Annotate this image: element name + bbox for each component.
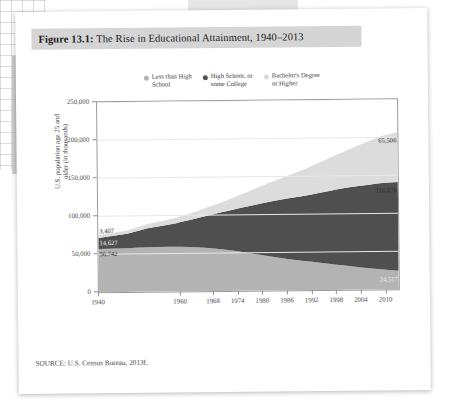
figure-page-card: Figure 13.1: The Rise in Educational Att… xyxy=(15,8,431,394)
x-axis-tick-label: 1968 xyxy=(206,297,220,304)
source-note: SOURCE: U.S. Census Bureau, 2013f. xyxy=(36,359,148,368)
x-axis-tick-label: 1980 xyxy=(255,297,269,304)
x-axis-tick-label: 2004 xyxy=(354,296,368,303)
y-axis-tick-label: 100,000 xyxy=(68,212,90,219)
y-axis-tick-mark xyxy=(93,215,97,216)
x-axis-tick-mark xyxy=(238,291,239,295)
label-end-less-than-high-school: 24,517 xyxy=(370,275,398,282)
gridline-horizontal xyxy=(97,137,397,140)
label-end-high-school: 116,676 xyxy=(369,186,397,193)
y-axis-tick-label: 250,000 xyxy=(67,98,89,105)
y-axis-tick-label: 50,000 xyxy=(72,250,91,257)
legend-swatch-icon xyxy=(144,76,149,81)
x-axis-tick-mark xyxy=(386,289,387,293)
x-axis-tick-label: 1992 xyxy=(305,296,319,303)
legend-label: Less than High School xyxy=(152,72,192,89)
x-axis-tick-mark xyxy=(361,290,362,294)
label-end-bachelors: 65,506 xyxy=(368,137,396,144)
y-axis-title: U.S. population age 25 and older (in tho… xyxy=(53,99,71,203)
x-axis-tick-label: 1986 xyxy=(280,296,294,303)
x-axis-tick-label: 1998 xyxy=(329,296,343,303)
figure-title-band: Figure 13.1: The Rise in Educational Att… xyxy=(31,26,361,50)
x-axis-tick-mark xyxy=(98,292,99,296)
y-axis-tick-mark xyxy=(93,177,97,178)
stacked-area-svg xyxy=(97,99,399,292)
x-axis-tick-mark xyxy=(213,291,214,295)
label-start-bachelors: 3,407 xyxy=(99,227,114,234)
legend-swatch-icon xyxy=(203,75,208,80)
x-axis-tick-mark xyxy=(262,291,263,295)
x-axis-tick-mark xyxy=(287,290,288,294)
plot-area xyxy=(96,98,400,293)
y-axis-tick-label: 150,000 xyxy=(68,174,90,181)
gridline-horizontal xyxy=(97,99,397,102)
y-axis-tick-mark xyxy=(92,101,96,102)
legend-swatch-icon xyxy=(264,75,269,80)
chart-legend: Less than High SchoolHigh Schoor, or som… xyxy=(144,70,394,96)
y-axis-tick-label: 200,000 xyxy=(67,136,89,143)
figure-caption: The Rise in Educational Attainment, 1940… xyxy=(94,31,304,44)
x-axis-tick-label: 1960 xyxy=(173,297,187,304)
y-axis-tick-mark xyxy=(93,253,97,254)
x-axis-tick-mark xyxy=(180,291,181,295)
y-axis-tick-mark xyxy=(92,139,96,140)
x-axis-tick-label: 2010 xyxy=(379,295,393,302)
figure-number: Figure 13.1: xyxy=(38,33,93,45)
x-axis-tick-label: 1940 xyxy=(91,298,105,305)
figure-title-text: Figure 13.1: The Rise in Educational Att… xyxy=(31,31,303,45)
x-axis-tick-mark xyxy=(336,290,337,294)
label-start-less-than-high-school: 56,742 xyxy=(99,250,117,257)
x-axis-tick-mark xyxy=(312,290,313,294)
legend-bachelors-or-higher: Bachelor's Degree or Higher xyxy=(264,71,320,96)
chart-container: Less than High SchoolHigh Schoor, or som… xyxy=(32,54,413,346)
label-start-high-school: 14,627 xyxy=(99,239,117,246)
legend-label: Bachelor's Degree or Higher xyxy=(272,71,320,88)
y-axis-tick-label: 0 xyxy=(87,288,90,295)
legend-less-than-high-school: Less than High School xyxy=(144,72,192,96)
x-axis-tick-label: 1974 xyxy=(231,297,245,304)
legend-label: High Schoor, or some College xyxy=(211,72,253,89)
legend-high-school-some-college: High Schoor, or some College xyxy=(203,72,253,96)
